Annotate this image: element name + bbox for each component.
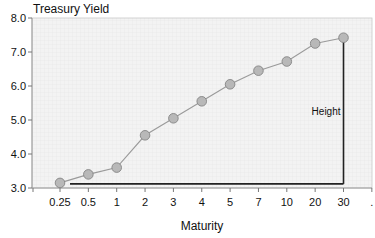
data-point-5 — [225, 80, 235, 90]
x-tick-label: 7 — [255, 196, 261, 208]
data-point-0.25 — [55, 178, 65, 188]
x-tick-label: 1 — [114, 196, 120, 208]
x-axis-label: Maturity — [181, 219, 224, 233]
x-ticks: 0.250.5123457102030. — [33, 188, 373, 208]
y-tick-label: 5.0 — [11, 114, 26, 126]
data-point-10 — [282, 57, 292, 67]
x-tick-label: 4 — [199, 196, 205, 208]
x-tick-label-extra: . — [370, 196, 373, 208]
data-point-4 — [197, 97, 207, 107]
x-tick-label: 10 — [281, 196, 293, 208]
data-point-0.5 — [84, 170, 94, 180]
data-point-1 — [112, 163, 122, 173]
data-point-20 — [310, 39, 320, 49]
yield-curve-chart: Treasury Yield 3.04.05.06.07.08.0 0.250.… — [0, 0, 375, 238]
y-tick-label: 8.0 — [11, 12, 26, 24]
x-tick-label: 5 — [227, 196, 233, 208]
data-point-7 — [254, 66, 264, 76]
y-tick-label: 7.0 — [11, 46, 26, 58]
x-tick-label: 0.25 — [49, 196, 70, 208]
data-point-3 — [169, 114, 179, 124]
x-tick-label: 0.5 — [81, 196, 96, 208]
x-tick-label: 20 — [309, 196, 321, 208]
x-tick-label: 3 — [170, 196, 176, 208]
y-tick-label: 3.0 — [11, 182, 26, 194]
y-tick-label: 4.0 — [11, 148, 26, 160]
height-label: Height — [312, 106, 341, 117]
x-tick-label: 2 — [142, 196, 148, 208]
chart-title: Treasury Yield — [33, 2, 109, 16]
data-point-30 — [339, 33, 349, 43]
x-tick-label: 30 — [337, 196, 349, 208]
data-point-2 — [140, 131, 150, 141]
y-tick-label: 6.0 — [11, 80, 26, 92]
y-ticks: 3.04.05.06.07.08.0 — [11, 12, 32, 194]
